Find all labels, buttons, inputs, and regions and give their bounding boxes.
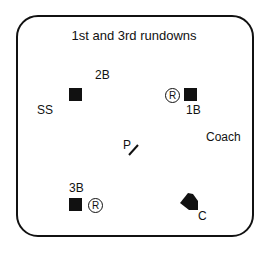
first-base-marker <box>184 88 197 101</box>
label-third-base: 3B <box>69 182 84 194</box>
second-base-marker <box>69 88 82 101</box>
runner-third-icon: R <box>88 198 103 213</box>
label-catcher: C <box>198 210 207 222</box>
home-plate-icon <box>178 190 200 212</box>
diagram-title: 1st and 3rd rundowns <box>0 28 268 43</box>
label-shortstop: SS <box>37 104 53 116</box>
third-base-marker <box>69 198 82 211</box>
label-coach: Coach <box>206 131 241 143</box>
field-frame <box>16 15 254 237</box>
pitcher-direction-icon <box>126 142 142 158</box>
label-first-base: 1B <box>186 104 201 116</box>
label-second-base: 2B <box>95 69 110 81</box>
runner-first-icon: R <box>165 88 180 103</box>
